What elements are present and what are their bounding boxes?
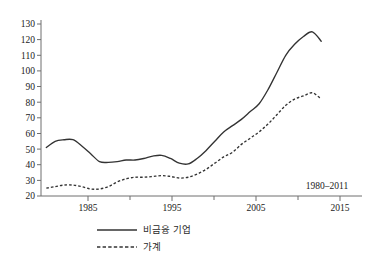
y-tick-label-110: 110 [21,51,35,61]
line-chart: 130 120 110 100 90 80 70 60 50 40 30 20 [0,0,375,264]
x-tick-label-1995: 1995 [163,203,182,213]
x-tick-marks [88,196,340,201]
y-tick-label-60: 60 [26,129,36,139]
y-tick-label-100: 100 [21,66,36,76]
legend: 비금융 기업 가계 [97,224,191,252]
x-axis: 1985 1995 2005 2015 [41,196,362,213]
series-group [46,32,321,190]
y-tick-label-90: 90 [26,82,36,92]
legend-label-nonfinancial-corporations: 비금융 기업 [143,224,191,235]
legend-label-households: 가계 [143,241,161,252]
x-tick-label-1985: 1985 [79,203,98,213]
legend-item-households[interactable]: 가계 [97,241,161,252]
y-tick-label-40: 40 [26,160,36,170]
y-tick-label-80: 80 [26,98,36,108]
chart-container: 130 120 110 100 90 80 70 60 50 40 30 20 [0,0,375,264]
y-tick-label-50: 50 [26,145,36,155]
x-tick-label-2015: 2015 [331,203,350,213]
legend-item-nonfinancial-corporations[interactable]: 비금융 기업 [97,224,191,235]
y-tick-label-30: 30 [26,176,36,186]
x-tick-label-2005: 2005 [247,203,266,213]
period-annotation: 1980–2011 [306,181,349,191]
y-tick-label-120: 120 [21,35,36,45]
y-tick-label-70: 70 [26,113,36,123]
y-tick-marks [37,24,41,196]
series-line-nonfinancial-corporations [46,32,321,165]
y-axis: 130 120 110 100 90 80 70 60 50 40 30 20 [21,19,41,201]
y-tick-label-130: 130 [21,19,36,29]
series-line-households [46,93,321,190]
y-tick-label-20: 20 [26,191,36,201]
